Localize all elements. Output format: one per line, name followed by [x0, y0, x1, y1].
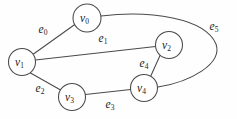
vertex-v0-sub: 0	[85, 17, 89, 26]
edge-e4	[151, 56, 160, 76]
edge-e5-label: e5	[210, 20, 219, 34]
edge-e0-label: e0	[39, 23, 48, 37]
edge-e1	[35, 47, 155, 60]
edge-e3-sub: 3	[111, 103, 115, 112]
graph-figure: v0 v1 v2 v3 v4 e0 e1 e2	[0, 0, 237, 119]
edge-e1-label: e1	[99, 32, 108, 46]
edge-e4-label: e4	[140, 57, 149, 71]
edge-e3-label: e3	[106, 98, 115, 112]
edges-group	[31, 14, 217, 94]
edge-e4-sub: 4	[145, 62, 149, 71]
vertices-group	[9, 4, 183, 111]
edge-e2-label: e2	[36, 82, 45, 96]
edge-e1-sub: 1	[104, 37, 108, 46]
edge-e3	[85, 90, 130, 95]
edge-e0-sub: 0	[44, 28, 48, 37]
vertex-v4-sub: 4	[142, 87, 146, 96]
vertex-v3-sub: 3	[70, 96, 74, 105]
edge-e2-sub: 2	[41, 87, 45, 96]
edge-e5-sub: 5	[215, 25, 219, 34]
vertex-v2-sub: 2	[167, 44, 171, 53]
graph-canvas: v0 v1 v2 v3 v4 e0 e1 e2	[0, 0, 237, 119]
vertex-v1-sub: 1	[20, 61, 24, 70]
